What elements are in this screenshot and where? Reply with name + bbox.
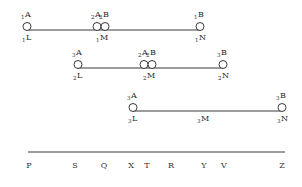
- circle-marker-3b: [278, 104, 286, 112]
- point-label-1n: 1N: [195, 34, 206, 42]
- circle-marker-3b: [219, 61, 227, 69]
- axis-label-z: Z: [279, 162, 285, 170]
- circle-marker-2b: [148, 61, 156, 69]
- axis-label-y: Y: [201, 162, 206, 170]
- circle-label-2b: 2B: [146, 49, 156, 57]
- axis-label-r: R: [168, 162, 174, 170]
- point-label-2n: 2N: [218, 72, 229, 80]
- point-label-1m: 1M: [96, 34, 108, 42]
- axis-label-x: X: [128, 162, 134, 170]
- circle-marker-2a: [140, 61, 148, 69]
- point-label-1l: 1L: [22, 34, 31, 42]
- circle-marker-2b: [101, 23, 109, 31]
- circle-label-3b: 3B: [217, 49, 227, 57]
- point-label-2l: 2L: [73, 72, 82, 80]
- circle-marker-2a: [93, 23, 101, 31]
- circle-label-3a: 3A: [127, 92, 137, 100]
- circle-marker-1a: [23, 23, 31, 31]
- diagram-canvas: [0, 0, 302, 187]
- circle-marker-3a: [74, 61, 82, 69]
- circle-label-3a: 3A: [72, 49, 82, 57]
- circle-label-3b: 3B: [276, 92, 286, 100]
- axis-label-q: Q: [101, 162, 108, 170]
- point-label-3l: 3L: [128, 115, 137, 123]
- axis-label-p: P: [26, 162, 31, 170]
- circle-marker-3a: [129, 104, 137, 112]
- point-label-3n: 3N: [277, 115, 288, 123]
- circle-label-2b: 2B: [99, 11, 109, 19]
- circle-label-1b: 1B: [194, 11, 204, 19]
- point-label-2m: 2M: [143, 72, 155, 80]
- axis-label-s: S: [72, 162, 77, 170]
- axis-label-t: T: [144, 162, 149, 170]
- circle-marker-1b: [196, 23, 204, 31]
- point-label-3m: 3M: [197, 115, 209, 123]
- circle-label-1a: 1A: [21, 11, 31, 19]
- axis-label-v: V: [221, 162, 227, 170]
